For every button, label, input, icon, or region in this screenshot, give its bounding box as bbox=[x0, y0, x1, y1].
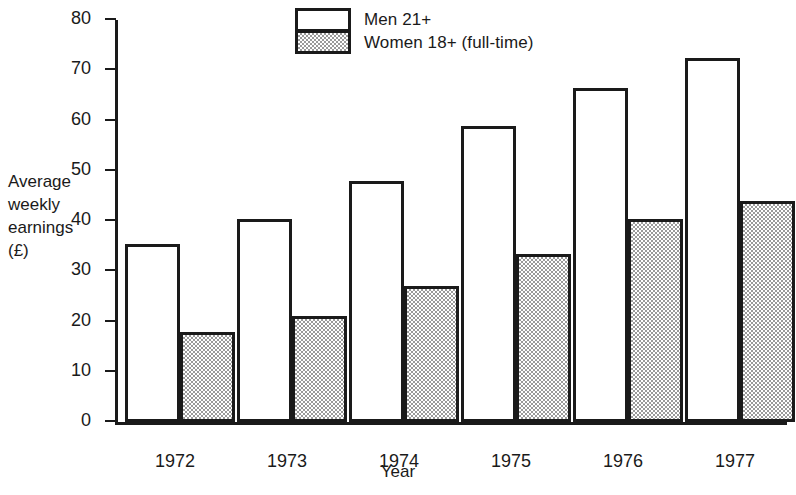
y-tick-label-0: 0 bbox=[81, 411, 91, 429]
bar-women-1975 bbox=[516, 254, 571, 422]
bar-group-1976 bbox=[573, 20, 683, 422]
y-tick-label-50: 50 bbox=[71, 160, 91, 178]
y-axis-title: Average weekly earnings (£) bbox=[8, 170, 73, 262]
y-tick-label-20: 20 bbox=[71, 311, 91, 329]
y-tick-label-10: 10 bbox=[71, 361, 91, 379]
bar-men-1976 bbox=[573, 88, 628, 422]
y-tick-label-60: 60 bbox=[71, 110, 91, 128]
y-tick-label-70: 70 bbox=[71, 59, 91, 77]
bar-men-1974 bbox=[349, 181, 404, 422]
bar-women-1973 bbox=[292, 316, 347, 422]
y-tick-label-30: 30 bbox=[71, 260, 91, 278]
bar-women-1974 bbox=[404, 286, 459, 422]
y-axis-title-line-1: Average bbox=[8, 170, 73, 193]
chart-canvas: Men 21+ Women 18+ (full-time) Average we… bbox=[0, 0, 796, 495]
y-tick-30: 30 bbox=[105, 269, 116, 271]
bar-women-1976 bbox=[628, 219, 683, 423]
y-tick-40: 40 bbox=[105, 219, 116, 221]
y-tick-60: 60 bbox=[105, 119, 116, 121]
y-tick-50: 50 bbox=[105, 169, 116, 171]
y-axis-title-line-2: weekly bbox=[8, 193, 73, 216]
bars-container bbox=[118, 20, 787, 422]
y-tick-0: 0 bbox=[105, 420, 116, 422]
y-tick-label-40: 40 bbox=[71, 210, 91, 228]
bar-group-1973 bbox=[237, 20, 347, 422]
plot-area: 01020304050607080 1972197319741975197619… bbox=[115, 20, 787, 425]
bar-women-1977 bbox=[740, 201, 795, 422]
y-tick-label-80: 80 bbox=[71, 9, 91, 27]
bar-group-1977 bbox=[685, 20, 795, 422]
y-axis-title-line-4: (£) bbox=[8, 239, 73, 262]
bar-group-1972 bbox=[125, 20, 235, 422]
y-tick-10: 10 bbox=[105, 370, 116, 372]
bar-men-1972 bbox=[125, 244, 180, 422]
bar-men-1973 bbox=[237, 219, 292, 423]
bar-group-1974 bbox=[349, 20, 459, 422]
bar-men-1977 bbox=[685, 58, 740, 422]
y-tick-80: 80 bbox=[105, 18, 116, 20]
y-axis-title-line-3: earnings bbox=[8, 216, 73, 239]
bar-men-1975 bbox=[461, 126, 516, 422]
x-axis-line bbox=[115, 422, 787, 425]
y-tick-20: 20 bbox=[105, 320, 116, 322]
x-axis-title: Year bbox=[0, 462, 796, 482]
bar-group-1975 bbox=[461, 20, 571, 422]
bar-women-1972 bbox=[180, 332, 235, 422]
y-tick-70: 70 bbox=[105, 68, 116, 70]
